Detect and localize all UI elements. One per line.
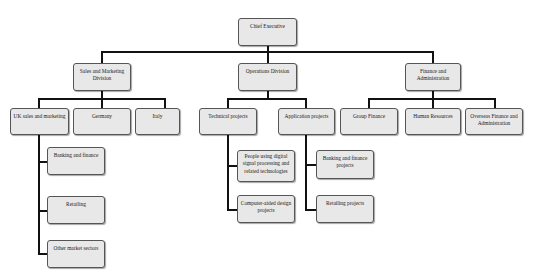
connector-uk-up (38, 98, 40, 108)
connector-app-up (305, 98, 307, 108)
connector-italy-up (164, 98, 166, 108)
connector-sales-up (101, 51, 103, 63)
connector-germany-up (101, 98, 103, 108)
connector-tech-unit-0 (227, 165, 237, 167)
connector-app-unit-0 (305, 164, 316, 166)
node-sales-marketing-division: Sales and Marketing Division (73, 63, 131, 91)
connector-ops-up (267, 51, 269, 63)
node-operations-division: Operations Division (238, 63, 297, 91)
connector-overseas-up (494, 98, 496, 108)
node-technical-projects: Technical projects (199, 108, 257, 135)
node-human-resources: Human Resources (405, 108, 461, 135)
connector-tech-spine (227, 135, 229, 211)
node-retailing: Retailing (47, 196, 105, 224)
node-uk-sales-marketing: UK sales and marketing (10, 108, 69, 135)
node-computer-aided-design: Computer-aided design projects (237, 195, 295, 223)
connector-uk-unit-0 (38, 161, 47, 163)
node-group-finance: Group Finance (340, 108, 398, 135)
node-banking-finance-projects: Banking and finance projects (316, 150, 374, 179)
connector-fin-up (432, 51, 434, 63)
connector-app-unit-1 (305, 209, 316, 211)
node-finance-administration: Finance and Administration (405, 63, 461, 91)
connector-uk-unit-1 (38, 210, 47, 212)
node-italy: Italy (135, 108, 180, 135)
connector-group-up (368, 98, 370, 108)
connector-app-spine (305, 135, 307, 211)
node-application-projects: Application projects (278, 108, 335, 135)
node-other-market-sectors: Other market sectors (47, 240, 105, 268)
node-overseas-finance-administration: Overseas Finance and Administration (465, 108, 523, 135)
connector-uk-spine (38, 135, 40, 255)
connector-tech-up (227, 98, 229, 108)
node-retailing-projects: Retailing projects (316, 195, 374, 223)
connector-ops-bar (227, 98, 307, 100)
connector-uk-unit-2 (38, 253, 47, 255)
connector-hr-up (432, 98, 434, 108)
node-chief-executive: Chief Executive (238, 18, 297, 46)
node-digital-signal-processing: People using digital signal processing a… (237, 150, 295, 182)
node-germany: Germany (73, 108, 131, 135)
connector-tech-unit-1 (227, 209, 237, 211)
node-banking-finance: Banking and finance (47, 147, 105, 175)
